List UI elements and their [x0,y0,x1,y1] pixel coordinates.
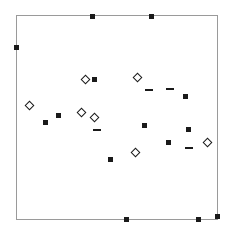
data-point-square [166,140,171,145]
data-point-square [43,120,48,125]
data-point-diamond [80,74,90,84]
scatter-plot-figure [0,0,235,235]
data-point-diamond [132,72,142,82]
data-point-diamond [202,137,212,147]
data-point-square [56,113,61,118]
data-point-diamond [130,147,140,157]
data-point-square [196,217,201,222]
data-point-square [183,94,188,99]
data-point-square [142,123,147,128]
data-point-dash [166,88,174,90]
data-point-square [108,157,113,162]
data-point-square [186,127,191,132]
data-point-diamond [24,100,34,110]
data-point-square [14,45,19,50]
data-point-square [215,214,220,219]
data-point-square [92,77,97,82]
data-point-dash [185,147,193,149]
data-marker-layer [0,0,235,235]
data-point-dash [93,129,101,131]
data-point-square [149,14,154,19]
data-point-diamond [76,107,86,117]
data-point-dash [145,89,153,91]
data-point-square [90,14,95,19]
data-point-diamond [89,112,99,122]
data-point-square [124,217,129,222]
